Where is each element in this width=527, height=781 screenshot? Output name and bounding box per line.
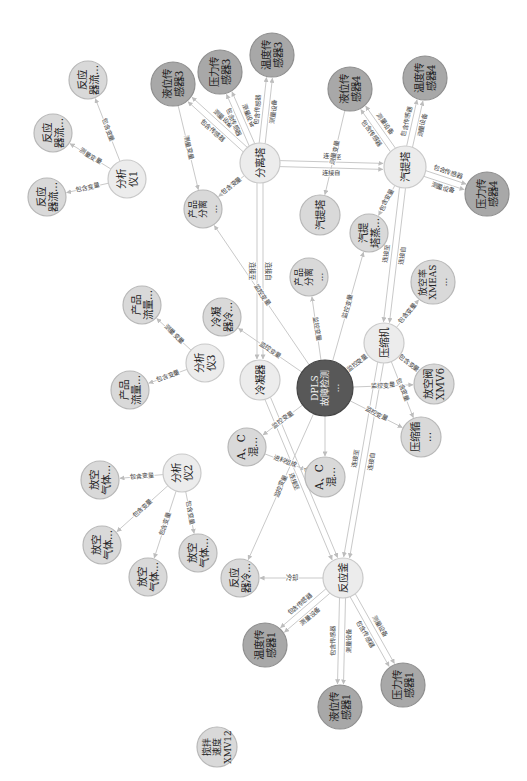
edge-label: 包含传感器 xyxy=(398,105,414,137)
node-label-line: 汽提塔 xyxy=(314,199,326,230)
graph-node-fxy1[interactable]: 分析仪1 xyxy=(108,160,146,198)
node-label: 液位传感器3 xyxy=(161,69,185,99)
node-label-line: 放空 xyxy=(88,470,100,490)
graph-node-yl1[interactable]: 压力传感器1 xyxy=(381,663,425,707)
node-label: 压力传感器3 xyxy=(208,57,232,87)
node-label-line: ... xyxy=(331,384,341,393)
node-label-line: 感器3 xyxy=(272,42,284,69)
graph-node-cpll2[interactable]: 产品流量... xyxy=(111,371,149,409)
node-label-line: DPLS xyxy=(310,375,320,400)
graph-node-cpfl2[interactable]: 产品分离... xyxy=(290,258,328,296)
node-label-line: 感器4 xyxy=(350,75,362,102)
node-label: 分析仪1 xyxy=(115,168,139,189)
graph-node-wd3[interactable]: 温度传感器3 xyxy=(250,33,294,77)
node-layer: 反应器流...反应器流...反应器流...分析仪1液位传感器3压力传感器3温度传… xyxy=(28,33,509,767)
edge-label: 测量设备 xyxy=(267,98,279,124)
node-label-line: 温度传 xyxy=(260,40,272,70)
node-label-line: 感器3 xyxy=(173,71,185,98)
node-label-line: 分离 xyxy=(197,200,208,218)
graph-node-fyql[interactable]: 反应器冷... xyxy=(221,559,259,597)
graph-node-fxy3[interactable]: 分析仪3 xyxy=(186,344,224,382)
node-label-line: A、C xyxy=(313,464,325,491)
node-label-line: 搅拌 xyxy=(201,738,212,756)
graph-node-wd4[interactable]: 温度传感器4 xyxy=(403,56,447,100)
node-label-line: 感器1 xyxy=(403,672,415,699)
node-label-line: 流量... xyxy=(130,375,142,405)
node-label-line: 感器4 xyxy=(487,180,499,207)
node-label: 压力传感器1 xyxy=(391,670,415,700)
graph-node-fkqt4[interactable]: 放空气体... xyxy=(179,534,217,572)
graph-node-fkl[interactable]: 放空率XMEAS... xyxy=(411,260,455,304)
node-label-line: 分离 xyxy=(303,268,314,286)
graph-node-jb[interactable]: 搅拌速度XMV12 xyxy=(197,727,237,767)
graph-node-wd1[interactable]: 温度传感器1 xyxy=(243,623,287,667)
graph-node-ac1[interactable]: A、C混... xyxy=(228,428,266,466)
graph-node-ac2[interactable]: A、C混... xyxy=(305,457,345,497)
edge-label: 监控变量 xyxy=(271,473,289,499)
edge-label: 连接至 xyxy=(248,262,257,280)
node-label-line: 压力传 xyxy=(208,57,220,87)
node-label-line: 产品 xyxy=(130,295,142,315)
edge-label: 测量设备 xyxy=(430,179,457,195)
node-label: 分离塔 xyxy=(254,147,266,178)
edge-label: 包含变量 xyxy=(75,180,101,194)
graph-node-yl4[interactable]: 压力传感器4 xyxy=(465,172,509,216)
graph-node-yw4[interactable]: 液位传感器4 xyxy=(328,67,372,111)
graph-node-fyf[interactable]: 反应釜 xyxy=(323,558,363,598)
node-label-line: 温度传 xyxy=(253,630,265,660)
graph-node-flt[interactable]: 分离塔 xyxy=(240,143,280,183)
node-label-line: 感器1 xyxy=(340,694,352,721)
edge-label: 包含变量 xyxy=(156,511,172,538)
node-label: A、C混... xyxy=(313,464,337,491)
graph-node-fkqt2[interactable]: 放空气体... xyxy=(83,526,121,564)
edge-label: 冷却 xyxy=(286,573,298,582)
edge-label: 监控变量 xyxy=(371,380,396,390)
graph-node-fy1b[interactable]: 反应器流... xyxy=(34,114,72,152)
node-label-line: 感器1 xyxy=(265,632,277,659)
graph-node-yw3[interactable]: 液位传感器3 xyxy=(151,62,195,106)
node-label: 反应釜 xyxy=(337,562,349,593)
node-label-line: 产品 xyxy=(293,268,304,286)
graph-node-qtz[interactable]: 汽提塔蒸... xyxy=(350,214,388,252)
graph-node-cpll1[interactable]: 产品流量... xyxy=(123,286,161,324)
knowledge-graph[interactable]: 包含变量测量变量包含变量包含传感器测量设备包含传感器测量设备包含传感器测量设备测… xyxy=(0,0,527,781)
graph-node-fkqt3[interactable]: 放空气体... xyxy=(129,558,167,596)
node-label-line: 流量... xyxy=(142,290,154,320)
node-label-line: 压缩循 xyxy=(409,422,421,452)
knowledge-graph-canvas[interactable]: 包含变量测量变量包含变量包含传感器测量设备包含传感器测量设备包含传感器测量设备测… xyxy=(0,0,527,781)
node-label-line: 混... xyxy=(325,467,337,487)
node-label-line: 分析 xyxy=(115,168,127,189)
node-label-line: 冷凝器 xyxy=(254,364,266,395)
edge-label: 测量设备 xyxy=(415,111,429,137)
node-label-line: ... xyxy=(315,273,325,282)
graph-node-qtt2[interactable]: 汽提塔 xyxy=(300,195,340,235)
node-label: 汽提塔 xyxy=(399,151,411,182)
graph-node-ysj[interactable]: 压缩机 xyxy=(364,323,404,363)
graph-node-ysx[interactable]: 压缩循... xyxy=(401,417,441,457)
graph-node-qtt[interactable]: 汽提塔 xyxy=(384,146,426,188)
graph-node-fy1c[interactable]: 反应器流... xyxy=(28,178,66,216)
graph-node-cpfl1[interactable]: 产品分离... xyxy=(184,190,222,228)
node-label-line: 放空阀 xyxy=(422,369,434,399)
node-label: A、C混... xyxy=(235,434,259,461)
edge-label: 包含变量 xyxy=(184,500,198,526)
node-label-line: 压力传 xyxy=(391,670,403,700)
graph-node-dpls[interactable]: DPLS故障检测... xyxy=(297,360,353,416)
graph-node-fkqt1[interactable]: 放空气体... xyxy=(81,461,119,499)
node-label-line: 反应 xyxy=(228,567,240,588)
node-label: 液位传感器1 xyxy=(328,692,352,722)
graph-node-lnql[interactable]: 冷凝器冷... xyxy=(203,298,241,336)
graph-node-fy1a[interactable]: 反应器流... xyxy=(69,61,107,99)
edge-label: 连接至 xyxy=(287,471,302,491)
node-label-line: 产品 xyxy=(118,380,130,400)
node-label-line: XMV6 xyxy=(434,367,446,400)
graph-node-fxy2[interactable]: 分析仪2 xyxy=(163,454,201,492)
edge-label: 测量变量 xyxy=(163,322,187,346)
node-label-line: 器流... xyxy=(88,65,100,95)
node-label: 分析仪2 xyxy=(170,462,194,483)
graph-node-yl3[interactable]: 压力传感器3 xyxy=(198,50,242,94)
graph-node-lnq[interactable]: 冷凝器 xyxy=(240,360,280,400)
graph-node-fkf[interactable]: 放空阀XMV6 xyxy=(414,364,454,404)
graph-node-yw1[interactable]: 液位传感器1 xyxy=(318,685,362,729)
edge-label: 包含传感器 xyxy=(328,625,338,656)
